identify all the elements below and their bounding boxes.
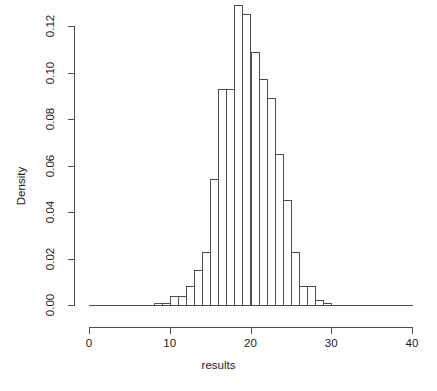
x-tick: [412, 327, 413, 334]
x-tick-label: 20: [231, 337, 271, 349]
histogram-baseline: [89, 305, 413, 306]
x-tick: [170, 327, 171, 334]
histogram-plot: 0.000.020.040.060.080.100.12 Density 010…: [0, 0, 437, 391]
x-axis-label: results: [0, 359, 437, 371]
x-tick: [89, 327, 90, 334]
x-tick: [331, 327, 332, 334]
x-tick-label: 40: [392, 337, 432, 349]
x-tick: [251, 327, 252, 334]
x-tick-label: 30: [311, 337, 351, 349]
x-tick-label: 10: [150, 337, 190, 349]
x-tick-label: 0: [69, 337, 109, 349]
histogram-bars: [0, 0, 437, 391]
